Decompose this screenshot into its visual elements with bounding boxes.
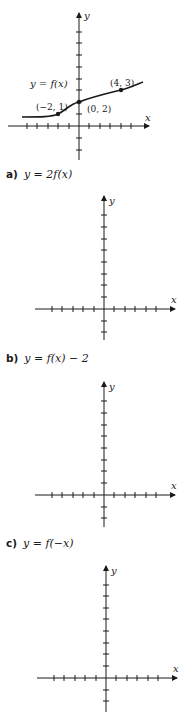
point-label-4-3: (4, 3) — [110, 78, 134, 88]
svg-text:y: y — [108, 195, 115, 206]
original-graph: x y y = f(x) (−2, 1) (0, 2) (4, 3) — [0, 0, 184, 170]
y-axis-label: y — [83, 10, 90, 21]
x-axis-label: x — [145, 112, 151, 123]
point-4-3 — [119, 88, 123, 92]
y-axis — [76, 13, 82, 160]
point-label-0-2: (0, 2) — [87, 104, 111, 114]
svg-text:x: x — [171, 294, 177, 305]
svg-text:x: x — [173, 663, 179, 674]
svg-text:y: y — [108, 381, 115, 392]
blank-axes-b: y x — [0, 375, 184, 545]
point-label-neg2-1: (−2, 1) — [36, 102, 68, 112]
blank-axes-c: y x — [0, 560, 184, 719]
part-b-label: b)y = f(x) − 2 — [6, 352, 89, 365]
point-neg2-1 — [56, 112, 60, 116]
blank-axes-a: y x — [0, 190, 184, 360]
point-0-2 — [77, 100, 81, 104]
svg-text:x: x — [171, 480, 177, 491]
svg-text:y: y — [110, 565, 117, 576]
part-a-label: a)y = 2f(x) — [6, 168, 72, 181]
function-label: y = f(x) — [29, 78, 68, 89]
part-c-label: c)y = f(−x) — [6, 537, 74, 550]
